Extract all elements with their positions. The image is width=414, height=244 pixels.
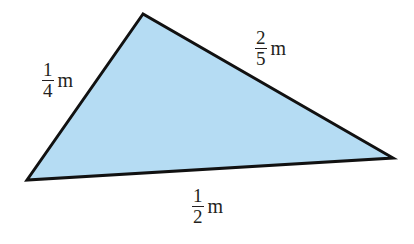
triangle-shape bbox=[27, 14, 393, 180]
unit: m bbox=[58, 69, 74, 92]
denominator: 4 bbox=[43, 81, 53, 100]
denominator: 2 bbox=[193, 207, 203, 226]
denominator: 5 bbox=[256, 49, 266, 68]
side-label-right: 2 5 m bbox=[255, 29, 286, 68]
numerator: 1 bbox=[192, 187, 204, 207]
unit: m bbox=[271, 37, 287, 60]
fraction: 1 4 bbox=[42, 61, 54, 100]
numerator: 1 bbox=[42, 61, 54, 81]
triangle-diagram: 1 4 m 2 5 m 1 2 m bbox=[0, 0, 414, 244]
unit: m bbox=[208, 195, 224, 218]
fraction: 1 2 bbox=[192, 187, 204, 226]
numerator: 2 bbox=[255, 29, 267, 49]
side-label-bottom: 1 2 m bbox=[192, 187, 223, 226]
side-label-left: 1 4 m bbox=[42, 61, 73, 100]
fraction: 2 5 bbox=[255, 29, 267, 68]
